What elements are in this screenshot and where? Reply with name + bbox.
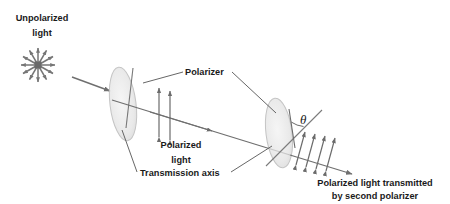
polarization-diagram: Unpolarized light θ <box>0 0 450 204</box>
transmitted-light-label-line1: Polarized light transmitted <box>317 178 432 188</box>
transmitted-light-label-line2: by second polarizer <box>332 191 419 201</box>
leader-polarizer-right <box>232 72 276 113</box>
figure-canvas: Unpolarized light θ <box>0 0 450 204</box>
starburst-hub <box>35 62 42 69</box>
polarized-light-label-line2: light <box>171 155 190 165</box>
unpolarized-light-label-line2: light <box>32 28 51 38</box>
vertical-polarization-arrows <box>159 88 170 140</box>
polarizer-label: Polarizer <box>185 67 224 77</box>
unpolarized-light-source <box>21 48 55 82</box>
polarized-light-label-line1: Polarized <box>161 140 202 150</box>
theta-label: θ <box>300 112 307 127</box>
leader-transmission-axis-right <box>231 146 272 172</box>
leader-polarizer-left <box>143 72 183 83</box>
second-polarizer-disk <box>262 97 296 170</box>
transmission-axis-label: Transmission axis <box>140 168 220 178</box>
transmitted-beam-arrow <box>290 155 352 174</box>
incident-beam-arrow <box>72 77 110 91</box>
unpolarized-light-label-line1: Unpolarized <box>16 13 69 23</box>
tilted-polarization-arrows <box>296 132 335 171</box>
